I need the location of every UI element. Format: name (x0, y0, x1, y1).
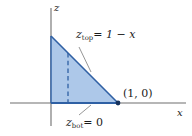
label-vertex-coordinate: (1, 0) (123, 88, 153, 99)
label-z-top-subscript: top (82, 34, 94, 42)
vertex-point-marker (116, 101, 121, 106)
label-axis-x: x (177, 108, 183, 118)
label-z-bot: zbot= 0 (66, 117, 103, 130)
label-z-top-equation: = 1 − x (93, 28, 135, 41)
label-z-top: ztop= 1 − x (76, 29, 135, 42)
leader-line-zbot (79, 105, 91, 115)
label-z-bot-equation: = 0 (83, 116, 103, 129)
label-z-bot-subscript: bot (72, 122, 84, 130)
label-axis-z: z (54, 3, 59, 13)
math-figure-triangular-region: ztop= 1 − x zbot= 0 (1, 0) x z (0, 0, 192, 136)
